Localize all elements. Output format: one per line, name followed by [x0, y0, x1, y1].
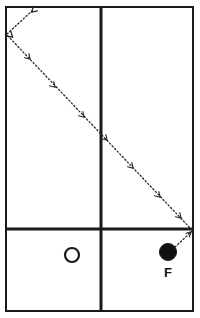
label-F: F: [164, 265, 172, 280]
diagram-canvas: F: [0, 0, 200, 318]
observer-circle-F: [160, 244, 177, 261]
reflection-diagram: F: [0, 0, 200, 318]
